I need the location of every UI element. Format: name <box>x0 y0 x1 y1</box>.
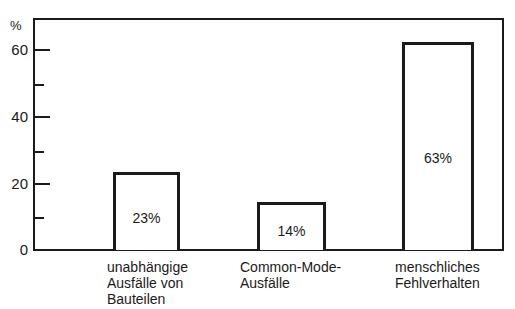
y-tick-40 <box>35 116 50 118</box>
bar-value-label: 63% <box>405 150 471 166</box>
y-label-60: 60 <box>4 41 28 58</box>
category-label-human-error: menschliches Fehlverhalten <box>395 259 480 291</box>
y-axis-unit: % <box>10 18 22 33</box>
y-label-0: 0 <box>4 241 28 258</box>
category-label-independent-failures: unabhängige Ausfälle von Bauteilen <box>107 259 188 307</box>
y-tick-10 <box>35 217 44 219</box>
y-tick-50 <box>35 84 44 86</box>
bar-value-label: 14% <box>260 223 323 239</box>
y-label-40: 40 <box>4 108 28 125</box>
bar-common-mode-failures: 14% <box>257 202 326 250</box>
y-tick-20 <box>35 183 50 185</box>
bar-value-label: 23% <box>116 210 177 226</box>
y-tick-60 <box>35 49 50 51</box>
y-tick-30 <box>35 151 44 153</box>
category-label-common-mode-failures: Common-Mode- Ausfälle <box>240 259 341 291</box>
y-label-20: 20 <box>4 175 28 192</box>
bar-human-error: 63% <box>402 42 474 250</box>
bar-independent-failures: 23% <box>113 172 180 250</box>
